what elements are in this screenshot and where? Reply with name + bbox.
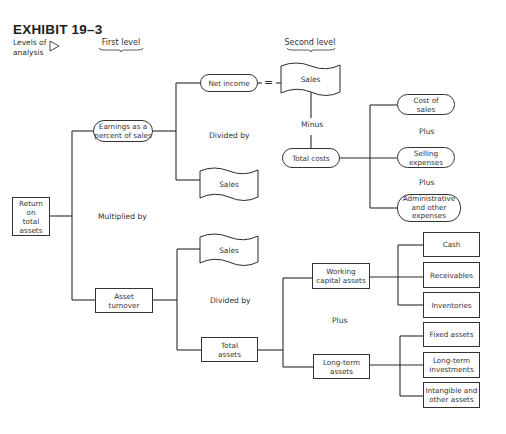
divided-by-bottom-label: Divided by [210,296,251,305]
node-text: Net income [208,79,249,88]
node-text: Total costs [292,154,330,163]
asset-turnover-box: Asset turnover [95,288,153,313]
sales-bottom-label: Sales [200,238,258,262]
node-text: Selling [414,149,438,158]
inventories-box: Inventories [423,292,480,318]
node-text: Sales [301,75,321,84]
fixed-assets-box: Fixed assets [423,322,480,347]
node-text: Long-term [323,358,360,367]
divided-by-top-label: Divided by [209,131,250,140]
cash-box: Cash [423,232,480,257]
node-text: assets [330,367,353,376]
node-text: Earnings as a [99,122,147,131]
sales-mid-label: Sales [200,172,258,196]
node-text: expenses [409,158,443,167]
node-text: Inventories [431,301,471,310]
node-text: assets [218,350,241,359]
plus-costs-1-label: Plus [419,127,434,136]
node-text: Receivables [430,271,473,280]
plus-assets-label: Plus [332,316,347,325]
node-text: Asset [114,292,134,301]
return-on-total-assets-box: Return on total assets [12,197,50,236]
minus-label: Minus [300,120,324,129]
node-text: Total [221,341,238,350]
receivables-box: Receivables [423,262,480,288]
selling-expenses-pill: Selling expenses [397,147,455,168]
multiplied-by-label: Multiplied by [98,212,147,221]
node-text: Working [326,267,355,276]
cost-of-sales-pill: Cost of sales [397,94,455,115]
node-text: percent of sales [94,131,151,140]
node-text: other assets [429,395,473,404]
node-text: Fixed assets [430,330,474,339]
total-assets-box: Total assets [201,337,258,362]
node-text: Cash [443,240,461,249]
node-text: Sales [219,180,239,189]
node-text: sales [417,105,435,114]
node-text: Long-term [433,356,470,365]
node-text: on [27,208,36,217]
node-text: investments [429,365,473,374]
working-capital-assets-box: Working capital assets [312,263,370,289]
node-text: assets [20,226,43,235]
node-text: capital assets [316,276,365,285]
equals-operator: = [264,76,273,89]
long-term-assets-box: Long-term assets [313,354,370,379]
plus-costs-2-label: Plus [419,178,434,187]
sales-top-label: Sales [281,67,340,91]
intangible-other-assets-box: Intangible and other assets [423,382,480,408]
node-text: Cost of [413,96,438,105]
long-term-investments-box: Long-term investments [423,352,480,378]
node-text: Intangible and [426,386,478,395]
total-costs-pill: Total costs [282,148,340,168]
node-text: Sales [219,246,239,255]
node-text: turnover [109,301,140,310]
node-text: total [23,217,39,226]
node-text: Return [19,199,43,208]
net-income-pill: Net income [200,74,258,92]
administrative-expenses-pill: Administrative and other expenses [397,194,461,222]
node-text: expenses [412,212,446,221]
earnings-percent-of-sales-pill: Earnings as a percent of sales [93,120,153,142]
